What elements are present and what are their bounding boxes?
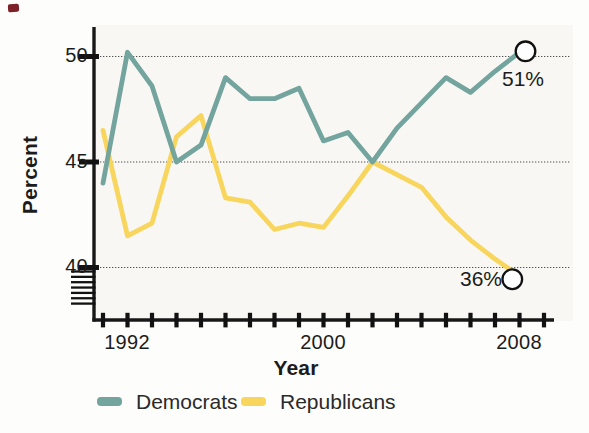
x-tick-label-1992: 1992 (97, 332, 157, 353)
legend-swatch-democrats (97, 397, 122, 406)
x-tick-label-2008: 2008 (489, 332, 549, 353)
chart-figure: 50 45 40 1992 2000 2008 Percent Year 51%… (0, 0, 589, 433)
y-axis-title: Percent (18, 136, 41, 214)
y-axis-title-wrap: Percent (18, 125, 42, 225)
x-axis-title: Year (273, 356, 318, 379)
legend-swatch-republicans (241, 397, 266, 406)
republicans-end-value-label: 36% (432, 268, 502, 290)
republicans-end-marker (503, 269, 523, 289)
x-axis-title-wrap: Year (246, 356, 346, 380)
legend-label-republicans: Republicans (280, 391, 396, 413)
y-tick-label-45: 45 (52, 151, 88, 172)
y-tick-label-50: 50 (52, 45, 88, 66)
x-tick-label-2000: 2000 (293, 332, 353, 353)
y-tick-label-40: 40 (52, 256, 88, 277)
democrats-end-marker (516, 41, 536, 61)
legend-label-democrats: Democrats (136, 391, 238, 413)
democrats-end-value-label: 51% (488, 68, 558, 90)
